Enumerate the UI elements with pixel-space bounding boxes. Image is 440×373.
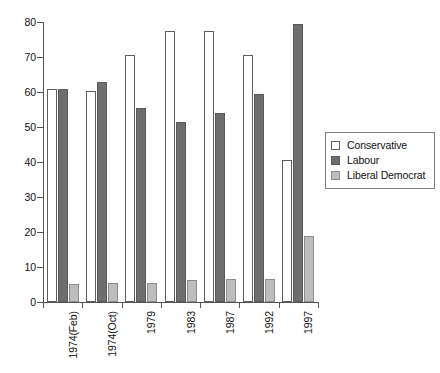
bar: [204, 31, 214, 302]
y-axis-tick-label: 40: [2, 157, 36, 168]
bar: [108, 283, 118, 302]
legend-swatch-icon: [331, 156, 340, 165]
bar: [147, 283, 157, 302]
x-axis-label: 1987: [225, 311, 236, 334]
bar: [176, 122, 186, 302]
y-axis-tick-label-wrap: 40: [0, 157, 36, 168]
bar: [265, 279, 275, 302]
bar: [97, 82, 107, 303]
bar: [226, 279, 236, 302]
bar: [136, 108, 146, 302]
x-axis-tick: [318, 303, 319, 308]
x-axis-tick: [43, 303, 44, 308]
legend-item-label: Conservative: [347, 140, 407, 151]
x-axis-tick: [200, 303, 201, 308]
bar: [125, 55, 135, 302]
legend-item-label: Labour: [347, 155, 379, 166]
x-axis-line: [43, 302, 319, 303]
y-axis-tick-label: 80: [2, 17, 36, 28]
y-axis-tick-label-wrap: 20: [0, 227, 36, 238]
y-axis-tick-label-wrap: 10: [0, 262, 36, 273]
y-axis-tick-label: 20: [2, 227, 36, 238]
x-axis-tick: [239, 303, 240, 308]
bar: [243, 55, 253, 302]
y-axis-tick-label-wrap: 70: [0, 52, 36, 63]
bar: [47, 89, 57, 303]
y-axis-tick-label: 50: [2, 122, 36, 133]
x-axis-label: 1997: [303, 311, 314, 334]
bar: [165, 31, 175, 302]
y-axis-tick-label: 10: [2, 262, 36, 273]
legend-swatch-icon: [331, 141, 340, 150]
x-axis-label: 1974(Oct): [107, 311, 118, 357]
y-axis-tick-label-wrap: 30: [0, 192, 36, 203]
bar: [187, 280, 197, 302]
legend-swatch-icon: [331, 171, 340, 180]
bar: [86, 91, 96, 302]
y-axis-tick-label-wrap: 0: [0, 297, 36, 308]
bar-chart: 01020304050607080 1974(Feb)1974(Oct)1979…: [0, 0, 440, 373]
y-axis-tick-label: 0: [2, 297, 36, 308]
bar: [282, 160, 292, 302]
bar: [304, 236, 314, 303]
y-axis-tick-label: 70: [2, 52, 36, 63]
legend-item: Labour: [331, 153, 428, 168]
legend-item: Conservative: [331, 138, 428, 153]
legend-item: Liberal Democrat: [331, 168, 428, 183]
bar: [215, 113, 225, 302]
x-axis-tick: [161, 303, 162, 308]
y-axis-tick-label-wrap: 50: [0, 122, 36, 133]
legend-item-label: Liberal Democrat: [347, 170, 425, 181]
bar: [69, 284, 79, 302]
x-axis-label: 1979: [146, 311, 157, 334]
bar: [293, 24, 303, 302]
x-axis-tick: [122, 303, 123, 308]
x-axis-label: 1983: [186, 311, 197, 334]
bar: [254, 94, 264, 302]
y-axis-tick-label-wrap: 60: [0, 87, 36, 98]
x-axis-label: 1992: [264, 311, 275, 334]
bar: [58, 89, 68, 303]
plot-area: [43, 22, 318, 302]
x-axis-label: 1974(Feb): [68, 311, 79, 359]
legend: ConservativeLabourLiberal Democrat: [325, 132, 435, 189]
x-axis-tick: [82, 303, 83, 308]
y-axis-tick-label-wrap: 80: [0, 17, 36, 28]
x-axis-tick: [279, 303, 280, 308]
y-axis-tick-label: 30: [2, 192, 36, 203]
y-axis-tick-label: 60: [2, 87, 36, 98]
